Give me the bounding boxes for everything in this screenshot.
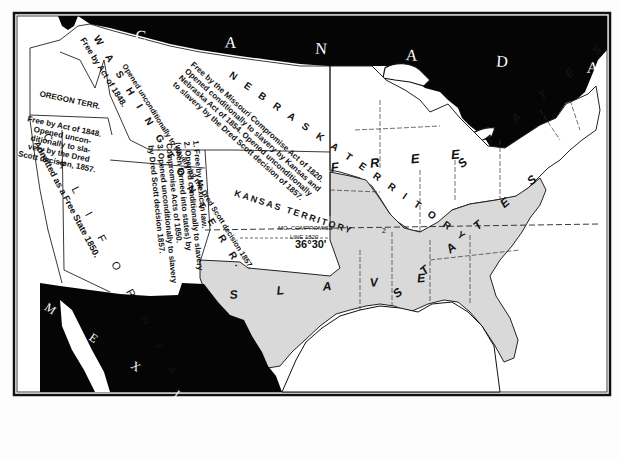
oregon-territory-label: OREGON TERR. xyxy=(30,88,109,113)
compromise-latitude: 36°30' xyxy=(295,240,327,249)
marker-two: 2 xyxy=(382,226,386,235)
compromise-line-label-1: MO. COMPROMISE xyxy=(278,224,333,233)
